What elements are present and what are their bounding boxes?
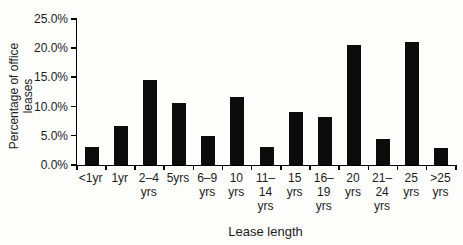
x-tick-label: 10 yrs	[222, 171, 251, 199]
y-axis-tick	[71, 135, 77, 137]
x-axis-tick	[105, 165, 107, 170]
x-tick-label: 1yr	[105, 171, 134, 185]
bar-<1yr	[85, 147, 99, 165]
x-axis-tick	[455, 165, 457, 170]
x-tick-label: 20 yrs	[338, 171, 367, 199]
bar-2–4 yrs	[143, 80, 157, 165]
bar-25 yrs	[405, 42, 419, 165]
x-axis-title: Lease length	[76, 224, 455, 239]
bar-20 yrs	[347, 45, 361, 165]
x-tick-label: 21– 24 yrs	[368, 171, 397, 213]
x-axis-tick	[309, 165, 311, 170]
bar-21–24 yrs	[376, 139, 390, 165]
office-lease-bar-chart: Percentage of office leases Lease length…	[0, 0, 463, 245]
bar-10 yrs	[230, 97, 244, 165]
x-tick-label: 5yrs	[163, 171, 192, 185]
x-axis-tick	[134, 165, 136, 170]
y-axis-tick	[71, 76, 77, 78]
x-tick-label: 6–9 yrs	[193, 171, 222, 199]
x-axis-tick	[338, 165, 340, 170]
y-tick-label: 25.0%	[0, 12, 68, 26]
x-axis-tick	[193, 165, 195, 170]
y-axis-tick	[71, 106, 77, 108]
bar->25 yrs	[434, 148, 448, 165]
x-axis-tick	[280, 165, 282, 170]
x-axis-tick	[76, 165, 78, 170]
bar-5yrs	[172, 103, 186, 165]
x-axis-tick	[426, 165, 428, 170]
y-tick-label: 10.0%	[0, 100, 68, 114]
x-tick-label: >25 yrs	[426, 171, 455, 199]
bar-15 yrs	[289, 112, 303, 165]
x-tick-label: 11– 14 yrs	[251, 171, 280, 213]
bar-6–9 yrs	[201, 136, 215, 165]
y-axis-tick	[71, 18, 77, 20]
y-tick-label: 0.0%	[0, 158, 68, 172]
y-axis-tick	[71, 164, 77, 166]
x-tick-label: 2–4 yrs	[134, 171, 163, 199]
bar-11–14 yrs	[260, 147, 274, 165]
y-axis-tick	[71, 47, 77, 49]
bar-1yr	[114, 126, 128, 165]
y-tick-label: 5.0%	[0, 129, 68, 143]
x-tick-label: 15 yrs	[280, 171, 309, 199]
x-axis-tick	[368, 165, 370, 170]
y-tick-label: 20.0%	[0, 41, 68, 55]
x-axis-tick	[397, 165, 399, 170]
x-axis-tick	[163, 165, 165, 170]
y-tick-label: 15.0%	[0, 70, 68, 84]
plot-area	[76, 19, 456, 166]
x-tick-label: 25 yrs	[397, 171, 426, 199]
x-axis-tick	[222, 165, 224, 170]
x-tick-label: <1yr	[76, 171, 105, 185]
x-axis-tick	[251, 165, 253, 170]
bar-16–19 yrs	[318, 117, 332, 165]
x-tick-label: 16– 19 yrs	[309, 171, 338, 213]
